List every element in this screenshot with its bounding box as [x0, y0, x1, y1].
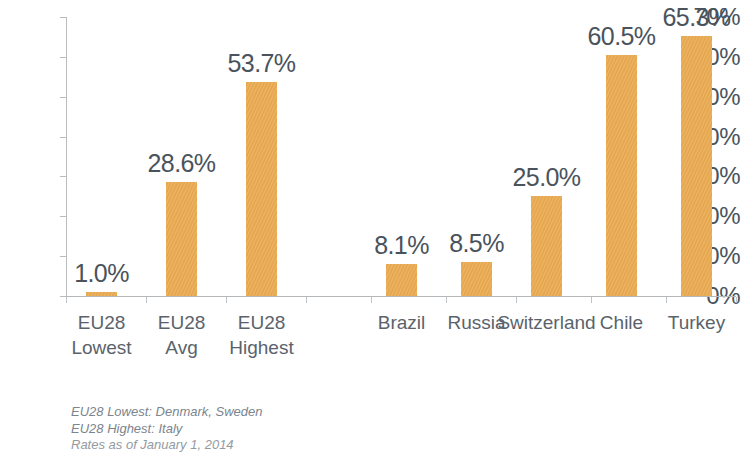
bar[interactable]: [246, 82, 277, 296]
x-axis-category-label: Turkey: [627, 310, 745, 335]
footnote-line-1: EU28 Lowest: Denmark, Sweden: [71, 404, 262, 421]
x-axis-tick-mark: [66, 297, 67, 303]
bar[interactable]: [461, 262, 492, 296]
bar-value-label: 65.3%: [637, 5, 745, 30]
category-label-line-1: EU28: [238, 312, 286, 333]
x-axis-tick-mark: [666, 297, 667, 303]
x-axis-tick-mark: [736, 297, 737, 303]
bar-value-label: 28.6%: [122, 151, 242, 176]
footnote-line-3: Rates as of January 1, 2014: [71, 437, 262, 454]
category-label-line-2: Highest: [192, 335, 332, 360]
plot-area: 1.0%28.6%53.7%8.1%8.5%25.0%60.5%65.3%: [0, 0, 740, 297]
bar[interactable]: [606, 55, 637, 296]
bar[interactable]: [531, 196, 562, 296]
bar-value-label: 53.7%: [202, 51, 322, 76]
bar[interactable]: [166, 182, 197, 296]
x-axis-tick-mark: [371, 297, 372, 303]
x-axis-tick-mark: [516, 297, 517, 303]
x-axis-tick-mark: [226, 297, 227, 303]
x-axis-tick-mark: [591, 297, 592, 303]
chart-footnotes: EU28 Lowest: Denmark, Sweden EU28 Highes…: [71, 404, 262, 454]
bar-value-label: 1.0%: [42, 261, 162, 286]
bar-value-label: 25.0%: [487, 165, 607, 190]
footnote-line-2: EU28 Highest: Italy: [71, 421, 262, 438]
bar[interactable]: [681, 36, 712, 296]
category-label-line-1: Turkey: [668, 312, 725, 333]
bar[interactable]: [86, 292, 117, 296]
x-axis-tick-mark: [306, 297, 307, 303]
x-axis-tick-mark: [446, 297, 447, 303]
x-axis-category-label: EU28Highest: [192, 310, 332, 360]
x-axis-tick-mark: [146, 297, 147, 303]
bar[interactable]: [386, 264, 417, 296]
bar-value-label: 8.5%: [417, 231, 537, 256]
